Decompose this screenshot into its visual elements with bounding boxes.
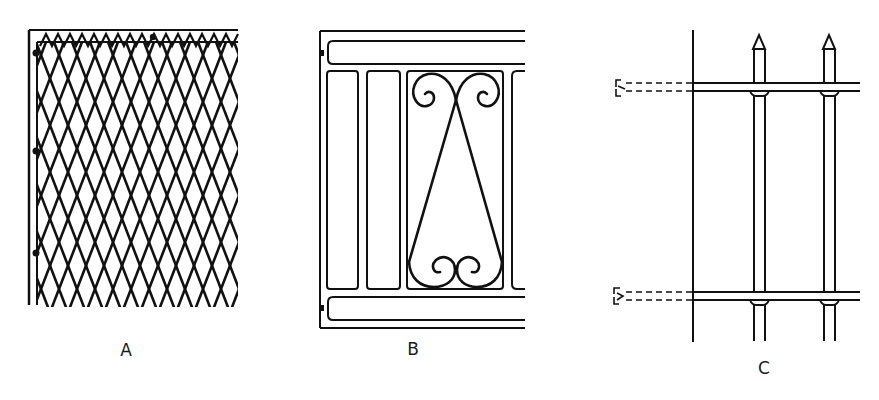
panel-label-b: B xyxy=(407,341,419,358)
hidden-rail-anchors xyxy=(626,83,693,300)
panel-label-a: A xyxy=(120,342,132,359)
fence-types-figure: A B C xyxy=(0,0,879,400)
rail-anchor-ends xyxy=(614,80,625,304)
panel-label-c: C xyxy=(758,360,770,377)
